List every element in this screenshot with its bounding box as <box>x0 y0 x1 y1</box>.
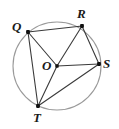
point-label-S: S <box>103 57 110 70</box>
point-marker-R <box>80 24 84 28</box>
point-label-Q: Q <box>12 20 21 33</box>
point-marker-O <box>55 64 58 67</box>
segment-QT <box>28 32 38 106</box>
segment-OR <box>57 26 82 66</box>
segments-group <box>28 26 99 106</box>
segment-RS <box>82 26 99 64</box>
point-label-R: R <box>77 7 86 20</box>
point-marker-Q <box>26 30 30 34</box>
segment-OS <box>57 64 99 66</box>
geometry-figure: Q R S T O <box>0 0 119 129</box>
point-label-O: O <box>42 59 51 72</box>
point-marker-S <box>97 62 101 66</box>
point-marker-T <box>36 104 40 108</box>
point-label-T: T <box>33 111 41 124</box>
